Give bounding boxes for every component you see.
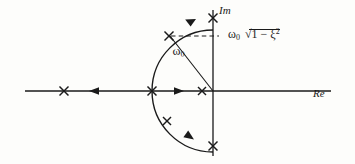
arrowhead-arc-lower xyxy=(183,131,194,140)
pole-marker-lower-arc xyxy=(163,117,171,125)
arrowhead-real-left xyxy=(89,87,99,94)
imaginary-axis-label: Im xyxy=(219,5,231,16)
damped-frequency-label: ω0 √1 − ξ2 xyxy=(228,28,280,42)
arrowhead-real-right xyxy=(174,87,184,94)
real-axis-label: Re xyxy=(313,88,325,99)
root-locus-canvas xyxy=(0,0,355,164)
arrowhead-arc-upper xyxy=(185,19,196,27)
radical-bar xyxy=(249,29,280,30)
omega-naught-radius-label: ω0 xyxy=(172,44,185,59)
radical-group: √1 − ξ2 xyxy=(240,28,280,40)
root-locus-figure: Im Re ω0 ω0 √1 − ξ2 xyxy=(0,0,355,164)
omega-subscript: 0 xyxy=(180,49,185,58)
omega-symbol: ω xyxy=(228,27,236,41)
